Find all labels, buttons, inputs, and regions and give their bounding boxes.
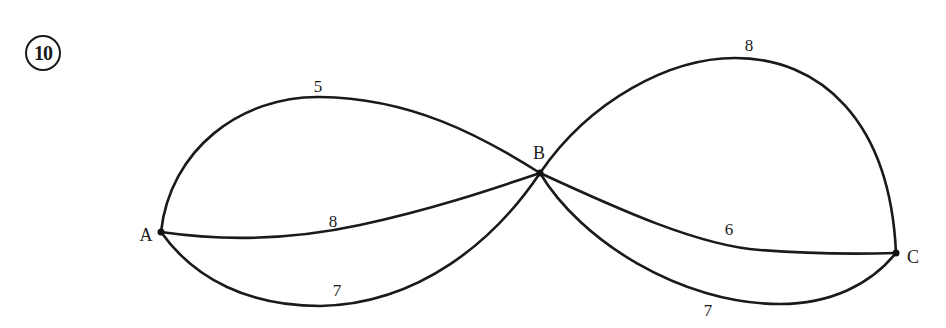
edge-weight-a-b-lower: 7 — [333, 282, 342, 299]
edge-weight-b-c-lower: 7 — [704, 302, 713, 319]
edge-weight-a-b-middle: 8 — [329, 213, 338, 230]
node-label-a: A — [140, 226, 153, 244]
edge-weight-a-b-upper: 5 — [314, 78, 323, 95]
node-label-b: B — [533, 144, 545, 162]
edge-a-b-5 — [161, 97, 540, 232]
edge-b-c-6 — [540, 173, 896, 254]
edge-a-b-8 — [161, 173, 540, 238]
node-a-dot — [158, 229, 165, 236]
node-c-dot — [893, 250, 900, 257]
node-b-dot — [537, 170, 544, 177]
edge-b-c-7 — [540, 173, 896, 304]
problem-number-badge: 10 — [25, 35, 61, 71]
graph-diagram: 10 A B C 5 8 7 8 6 7 — [0, 0, 946, 328]
edge-weight-b-c-middle: 6 — [725, 221, 734, 238]
problem-number-text: 10 — [34, 42, 52, 65]
graph-edges-layer — [0, 0, 946, 328]
node-label-c: C — [907, 248, 919, 266]
edge-weight-b-c-upper: 8 — [745, 37, 754, 54]
edge-b-c-8 — [540, 58, 896, 253]
